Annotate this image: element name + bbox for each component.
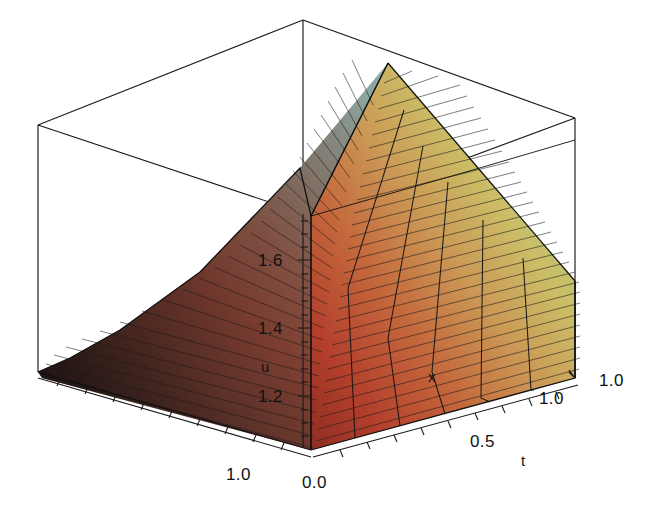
u-tick-label-1.4: 1.4	[258, 319, 283, 338]
u-tick-label-1.6: 1.6	[258, 251, 283, 270]
t-tick-label-0.5: 0.5	[470, 432, 495, 451]
surface-mesh	[38, 60, 580, 450]
t-tick-label-1.0: 1.0	[539, 389, 564, 408]
u-tick-label-1.2: 1.2	[258, 387, 283, 406]
x-axis-label: x	[428, 368, 436, 385]
t-axis-label: t	[521, 452, 526, 469]
x-tick-label-far: 0.0	[302, 473, 327, 492]
x-tick-label-near: 1.0	[226, 465, 251, 484]
plot-canvas: 1.6 1.4 1.2 u 1.0 0.0 x	[0, 0, 656, 520]
corner-tick-label-1.0: 1.0	[599, 371, 624, 390]
right-corner-tick: 1.0	[569, 281, 624, 390]
surface-plot-figure: 1.6 1.4 1.2 u 1.0 0.0 x	[0, 0, 656, 520]
u-axis-label: u	[261, 358, 269, 375]
